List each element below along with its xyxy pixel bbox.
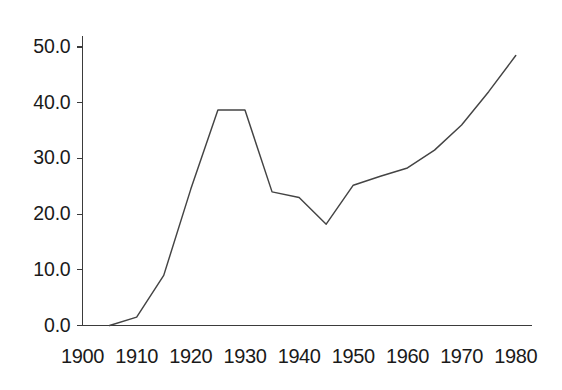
y-axis-ticks [77, 47, 83, 325]
axes-group [77, 36, 533, 326]
y-tick-label: 30.0 [0, 146, 71, 169]
x-tick-label: 1980 [481, 345, 551, 368]
data-series-line [110, 55, 516, 325]
y-tick-label: 10.0 [0, 258, 71, 281]
chart-plot-area [0, 0, 562, 390]
y-tick-label: 0.0 [0, 314, 71, 337]
y-tick-label: 20.0 [0, 202, 71, 225]
data-series-group [110, 55, 516, 325]
y-tick-label: 50.0 [0, 35, 71, 58]
line-chart: 0.010.020.030.040.050.0 1900191019201930… [0, 0, 562, 390]
y-tick-label: 40.0 [0, 91, 71, 114]
